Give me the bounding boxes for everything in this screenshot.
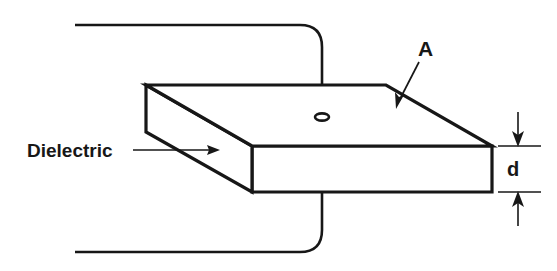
- capacitor-figure: Dielectric A d: [0, 0, 557, 271]
- bottom-lead-wire: [75, 192, 322, 252]
- thickness-label: d: [507, 158, 519, 180]
- dielectric-label: Dielectric: [27, 140, 113, 161]
- slab-front-face: [252, 146, 492, 192]
- area-leader-line: [401, 62, 419, 97]
- top-terminal-contact-icon: [315, 113, 329, 120]
- area-label: A: [418, 37, 433, 60]
- capacitor-diagram-canvas: Dielectric A d: [0, 0, 557, 271]
